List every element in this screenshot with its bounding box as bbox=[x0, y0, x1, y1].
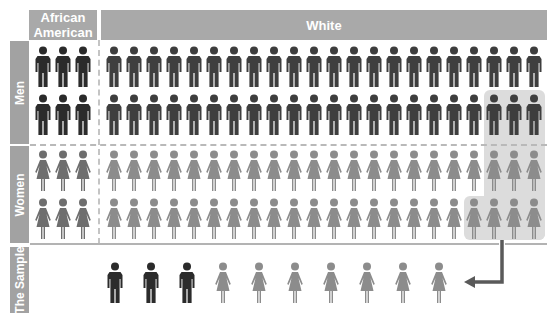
man-icon bbox=[346, 94, 362, 136]
row-label-men: Men bbox=[10, 41, 29, 144]
woman-icon bbox=[226, 150, 242, 192]
white-woman bbox=[266, 198, 282, 240]
man-icon bbox=[206, 46, 222, 88]
woman-icon bbox=[106, 198, 122, 240]
woman-icon bbox=[395, 262, 411, 304]
white-woman bbox=[406, 150, 422, 192]
woman-icon bbox=[446, 198, 462, 240]
man-icon bbox=[166, 94, 182, 136]
man-icon bbox=[55, 94, 71, 136]
white-man bbox=[106, 94, 122, 136]
man-icon bbox=[266, 46, 282, 88]
man-icon bbox=[106, 94, 122, 136]
man-icon bbox=[326, 94, 342, 136]
man-icon bbox=[106, 46, 122, 88]
woman-icon bbox=[206, 198, 222, 240]
woman-icon bbox=[346, 198, 362, 240]
man-icon bbox=[406, 94, 422, 136]
white-man bbox=[526, 94, 542, 136]
man-icon bbox=[426, 94, 442, 136]
woman-icon bbox=[386, 150, 402, 192]
white-man bbox=[126, 94, 142, 136]
woman-icon bbox=[166, 150, 182, 192]
woman-icon bbox=[126, 198, 142, 240]
man-icon bbox=[286, 94, 302, 136]
man-icon bbox=[486, 94, 502, 136]
woman-icon bbox=[146, 198, 162, 240]
woman-icon bbox=[323, 262, 339, 304]
white-woman bbox=[306, 198, 322, 240]
woman-icon bbox=[126, 150, 142, 192]
woman-icon bbox=[75, 198, 91, 240]
white-man bbox=[206, 46, 222, 88]
sample-woman bbox=[215, 262, 231, 304]
man-icon bbox=[486, 46, 502, 88]
man-icon bbox=[366, 46, 382, 88]
white-woman bbox=[286, 150, 302, 192]
man-icon bbox=[426, 46, 442, 88]
white-man bbox=[166, 46, 182, 88]
white-woman bbox=[446, 150, 462, 192]
african-american-man bbox=[55, 46, 71, 88]
white-man bbox=[166, 94, 182, 136]
white-woman bbox=[226, 150, 242, 192]
white-man bbox=[146, 94, 162, 136]
white-man bbox=[266, 46, 282, 88]
row-label-women: Women bbox=[10, 146, 29, 243]
man-icon bbox=[466, 94, 482, 136]
white-man bbox=[186, 94, 202, 136]
white-woman bbox=[206, 198, 222, 240]
white-woman bbox=[146, 150, 162, 192]
woman-icon bbox=[326, 198, 342, 240]
man-icon bbox=[75, 94, 91, 136]
white-man bbox=[286, 94, 302, 136]
woman-icon bbox=[506, 150, 522, 192]
woman-icon bbox=[166, 198, 182, 240]
white-woman bbox=[286, 198, 302, 240]
white-woman bbox=[366, 150, 382, 192]
woman-icon bbox=[286, 198, 302, 240]
african-american-man bbox=[55, 94, 71, 136]
row-label-sample-text: The Sample bbox=[13, 246, 27, 313]
white-man bbox=[306, 94, 322, 136]
white-man bbox=[506, 94, 522, 136]
woman-icon bbox=[246, 198, 262, 240]
man-icon bbox=[186, 46, 202, 88]
man-icon bbox=[446, 46, 462, 88]
woman-icon bbox=[186, 198, 202, 240]
white-woman bbox=[106, 150, 122, 192]
man-icon bbox=[75, 46, 91, 88]
sample-woman bbox=[251, 262, 267, 304]
woman-icon bbox=[35, 198, 51, 240]
woman-icon bbox=[431, 262, 447, 304]
header-african-american: African American bbox=[29, 10, 97, 40]
sample-man bbox=[143, 262, 159, 304]
white-woman bbox=[266, 150, 282, 192]
white-woman bbox=[426, 150, 442, 192]
white-man bbox=[386, 94, 402, 136]
white-man bbox=[226, 46, 242, 88]
header-white-label: White bbox=[306, 18, 341, 33]
white-man bbox=[526, 46, 542, 88]
white-man bbox=[126, 46, 142, 88]
white-man bbox=[446, 94, 462, 136]
man-icon bbox=[226, 46, 242, 88]
african-american-man bbox=[75, 94, 91, 136]
white-woman bbox=[246, 198, 262, 240]
white-man bbox=[466, 94, 482, 136]
woman-icon bbox=[446, 150, 462, 192]
white-man bbox=[506, 46, 522, 88]
white-woman bbox=[226, 198, 242, 240]
white-man bbox=[206, 94, 222, 136]
man-icon bbox=[179, 262, 195, 304]
woman-icon bbox=[366, 198, 382, 240]
man-icon bbox=[386, 94, 402, 136]
row-label-sample: The Sample bbox=[10, 247, 29, 313]
white-man bbox=[146, 46, 162, 88]
white-woman bbox=[466, 150, 482, 192]
row-label-women-text: Women bbox=[13, 173, 27, 216]
man-icon bbox=[406, 46, 422, 88]
woman-icon bbox=[186, 150, 202, 192]
man-icon bbox=[466, 46, 482, 88]
men-women-divider bbox=[30, 144, 547, 146]
